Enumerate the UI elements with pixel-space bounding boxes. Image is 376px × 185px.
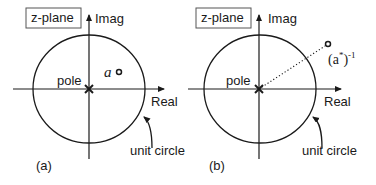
unit-circle-label: unit circle (302, 143, 357, 158)
panel-a: z-plane Imag Real pole a unit circle (a) (13, 8, 185, 173)
zero-label: a (104, 64, 112, 80)
imag-axis-label: Imag (95, 11, 124, 26)
zero-label: (a*)-1 (328, 50, 356, 68)
z-plane-box: z-plane (196, 8, 251, 28)
panel-caption: (b) (209, 158, 225, 173)
imag-axis-label: Imag (268, 11, 297, 26)
pole-label: pole (226, 73, 251, 88)
pole-zero-diagram: z-plane Imag Real pole a unit circle (a)… (0, 0, 376, 185)
pole-label: pole (57, 73, 82, 88)
zero-circle-icon (117, 70, 122, 75)
panel-caption: (a) (36, 158, 52, 173)
z-plane-label: z-plane (201, 10, 244, 25)
real-axis-label: Real (151, 94, 178, 109)
z-plane-box: z-plane (26, 8, 81, 28)
real-axis-label: Real (324, 94, 351, 109)
z-plane-label: z-plane (31, 10, 74, 25)
unit-circle-label: unit circle (130, 143, 185, 158)
zero-circle-icon (326, 42, 331, 47)
panel-b: z-plane Imag Real pole (a*)-1 unit circl… (188, 8, 357, 173)
